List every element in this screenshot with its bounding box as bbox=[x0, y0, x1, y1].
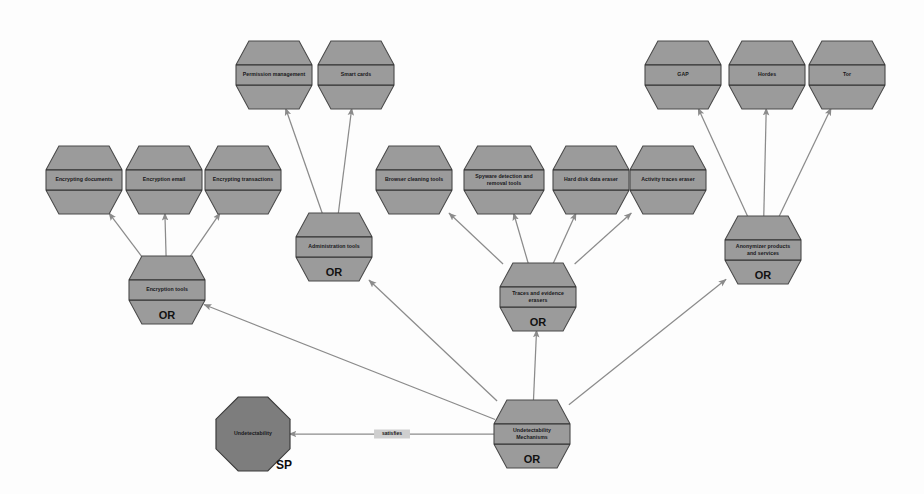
edge-traces-and-evidence-erasers-to-browser-cleaning-tools bbox=[449, 213, 503, 264]
edge-traces-and-evidence-erasers-to-spyware-detection-removal-tools bbox=[514, 213, 529, 264]
node-label-tor: Tor bbox=[843, 71, 851, 77]
node-undetectability-mechanisms[interactable]: UndetectabilityMechanismsOR bbox=[494, 400, 570, 468]
edge-anonymizer-products-and-services-to-hordes bbox=[764, 108, 767, 217]
node-label-undetectability-mechanisms: Undetectability bbox=[513, 427, 551, 433]
node-label-spyware-detection-removal-tools: removal tools bbox=[487, 180, 521, 186]
decomposition-label-encryption-tools: OR bbox=[159, 309, 176, 321]
edge-undetectability-mechanisms-to-administration-tools bbox=[369, 280, 497, 401]
node-tor[interactable]: Tor bbox=[809, 41, 885, 109]
node-label-activity-traces-eraser: Activity traces eraser bbox=[641, 176, 695, 182]
node-smart-cards[interactable]: Smart cards bbox=[318, 41, 394, 109]
edge-encryption-tools-to-encryption-email bbox=[165, 213, 166, 257]
node-label-smart-cards: Smart cards bbox=[341, 71, 372, 77]
node-hordes[interactable]: Hordes bbox=[729, 41, 805, 109]
node-label-hordes: Hordes bbox=[758, 71, 776, 77]
edge-traces-and-evidence-erasers-to-hard-disk-data-eraser bbox=[553, 213, 576, 264]
node-label-traces-and-evidence-erasers: Traces and evidence bbox=[512, 290, 564, 296]
decomposition-label-traces-and-evidence-erasers: OR bbox=[530, 316, 547, 328]
node-label-encryption-email: Encryption email bbox=[143, 176, 186, 182]
edge-encryption-tools-to-encrypting-transactions bbox=[190, 213, 220, 257]
node-spyware-detection-removal-tools[interactable]: Spyware detection andremoval tools bbox=[464, 146, 544, 214]
node-browser-cleaning-tools[interactable]: Browser cleaning tools bbox=[376, 146, 452, 214]
node-administration-tools[interactable]: Administration toolsOR bbox=[296, 213, 372, 281]
node-label-traces-and-evidence-erasers: erasers bbox=[529, 297, 548, 303]
node-label-anonymizer-products-and-services: Anonymizer products bbox=[736, 243, 790, 249]
node-anonymizer-products-and-services[interactable]: Anonymizer productsand servicesOR bbox=[725, 216, 801, 284]
node-encryption-email[interactable]: Encryption email bbox=[126, 146, 202, 214]
node-gap[interactable]: GAP bbox=[645, 41, 721, 109]
edge-administration-tools-to-permission-management bbox=[286, 108, 323, 214]
node-encryption-tools[interactable]: Encryption toolsOR bbox=[129, 256, 205, 324]
edge-label-e17: satisfies bbox=[382, 430, 402, 436]
edge-encryption-tools-to-encrypting-documents bbox=[109, 213, 142, 257]
node-undetectability[interactable]: UndetectabilitySP bbox=[216, 397, 292, 472]
node-label-encryption-tools: Encryption tools bbox=[146, 286, 188, 292]
diagram-canvas: Encrypting documentsEncryption emailEncr… bbox=[0, 0, 924, 494]
node-label-permission-management: Permission management bbox=[243, 71, 306, 77]
node-label-encrypting-transactions: Encrypting transactions bbox=[213, 176, 274, 182]
node-encrypting-documents[interactable]: Encrypting documents bbox=[46, 146, 122, 214]
node-label-browser-cleaning-tools: Browser cleaning tools bbox=[385, 176, 443, 182]
decomposition-label-anonymizer-products-and-services: OR bbox=[755, 269, 772, 281]
softgoal-marker-undetectability: SP bbox=[276, 458, 292, 472]
edge-traces-and-evidence-erasers-to-activity-traces-eraser bbox=[575, 213, 632, 264]
node-label-encrypting-documents: Encrypting documents bbox=[55, 176, 112, 182]
node-label-undetectability: Undetectability bbox=[234, 430, 272, 436]
node-encrypting-transactions[interactable]: Encrypting transactions bbox=[205, 146, 281, 214]
node-label-undetectability-mechanisms: Mechanisms bbox=[516, 434, 548, 440]
node-label-spyware-detection-removal-tools: Spyware detection and bbox=[475, 173, 533, 179]
node-activity-traces-eraser[interactable]: Activity traces eraser bbox=[630, 146, 706, 214]
node-hard-disk-data-eraser[interactable]: Hard disk data eraser bbox=[553, 146, 629, 214]
node-label-gap: GAP bbox=[677, 71, 689, 77]
edge-anonymizer-products-and-services-to-tor bbox=[779, 108, 831, 217]
goal-model-diagram: Encrypting documentsEncryption emailEncr… bbox=[0, 0, 924, 494]
edge-administration-tools-to-smart-cards bbox=[338, 108, 352, 214]
node-label-anonymizer-products-and-services: and services bbox=[747, 250, 779, 256]
node-label-administration-tools: Administration tools bbox=[308, 243, 359, 249]
edge-undetectability-mechanisms-to-anonymizer-products-and-services bbox=[569, 279, 726, 404]
edge-anonymizer-products-and-services-to-gap bbox=[698, 108, 748, 217]
edge-labels-layer: satisfies bbox=[374, 430, 410, 439]
decomposition-label-administration-tools: OR bbox=[326, 266, 343, 278]
node-label-hard-disk-data-eraser: Hard disk data eraser bbox=[564, 176, 618, 182]
edge-undetectability-mechanisms-to-traces-and-evidence-erasers bbox=[533, 330, 536, 401]
node-traces-and-evidence-erasers[interactable]: Traces and evidenceerasersOR bbox=[500, 263, 576, 331]
node-permission-management[interactable]: Permission management bbox=[236, 41, 312, 109]
decomposition-label-undetectability-mechanisms: OR bbox=[524, 453, 541, 465]
